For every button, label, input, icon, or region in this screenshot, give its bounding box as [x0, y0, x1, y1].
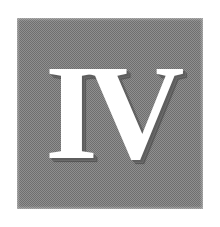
- gray-halftone-panel: IV: [17, 18, 203, 209]
- image-canvas: IV: [0, 0, 220, 227]
- numeral-container: IV: [17, 18, 203, 209]
- roman-numeral-four: IV: [45, 44, 173, 180]
